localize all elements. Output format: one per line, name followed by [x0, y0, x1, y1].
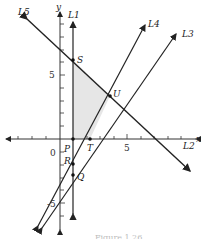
- point-P: [71, 137, 75, 141]
- y-axis-label: y: [55, 2, 62, 12]
- label-L1: L1: [67, 10, 80, 20]
- line-L4: [38, 25, 145, 226]
- origin-label: 0: [50, 148, 56, 158]
- label-R: R: [63, 156, 71, 166]
- label-P: P: [63, 144, 71, 154]
- point-S: [71, 58, 75, 62]
- point-U: [108, 94, 112, 98]
- shaded-region: [73, 60, 110, 139]
- y-neg-tick-label: -5: [47, 199, 56, 209]
- line-L3: [42, 34, 176, 228]
- point-R: [71, 162, 75, 166]
- point-T: [88, 137, 92, 141]
- label-S: S: [77, 55, 83, 65]
- x-axis-label: x: [196, 134, 201, 144]
- label-T: T: [87, 143, 94, 153]
- figure-caption: Figure 1.26: [95, 233, 142, 239]
- label-L5: L5: [17, 7, 30, 17]
- point-Q: [71, 173, 75, 177]
- y-tick-label: 5: [49, 70, 55, 80]
- label-Q: Q: [77, 172, 85, 182]
- label-L4: L4: [147, 19, 160, 29]
- x-tick-label: 5: [124, 143, 130, 153]
- label-L2: L2: [182, 141, 195, 151]
- feasible-region-diagram: y x 0 5 5 -5 L1 L2 L3 L4 L5 S U P T R Q …: [0, 0, 202, 239]
- x-axis-ticks: [18, 134, 181, 139]
- label-U: U: [113, 89, 121, 99]
- label-L3: L3: [181, 29, 194, 39]
